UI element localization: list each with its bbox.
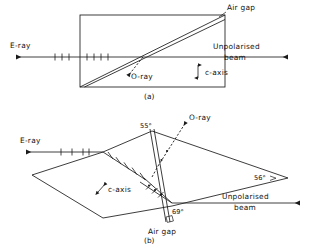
e-ray-label-a: E-ray [10,41,31,50]
unpolarised-beam-label-b-line2: beam [234,203,256,212]
panel-b-caption: (b) [144,236,155,245]
o-ray-label-a: O-ray [131,72,153,81]
o-ray-dot-b1 [160,159,162,161]
angle-right-label-b: 56° [254,174,266,182]
e-ray-label-b: E-ray [20,136,41,145]
unpolarised-beam-label-b-line1: Unpolarised [222,192,269,201]
ray-dot-b1 [154,189,156,191]
angle-bottom-label-b: 69° [172,208,184,216]
o-ray-label-b: O-ray [189,113,211,122]
ray-dot-b3 [148,184,150,186]
air-gap-label-b: Air gap [148,227,176,236]
panel-a-caption: (a) [144,92,154,101]
unpolarised-beam-label-a-line1: Unpolarised [213,42,260,51]
c-axis-label-a: c-axis [205,68,228,77]
angle-top-label-b: 55° [140,122,152,130]
optics-figure-svg: Air gap E-ray O-ray Unpolarised beam c-a… [0,0,316,248]
figure-root: Air gap E-ray O-ray Unpolarised beam c-a… [0,0,316,248]
o-ray-dot-b2 [166,150,168,152]
ray-dot-b2 [160,193,162,195]
c-axis-label-b: c-axis [108,185,131,194]
air-gap-label-a: Air gap [227,3,255,12]
unpolarised-beam-label-a-line2: beam [224,53,246,62]
canvas-background [0,0,316,248]
